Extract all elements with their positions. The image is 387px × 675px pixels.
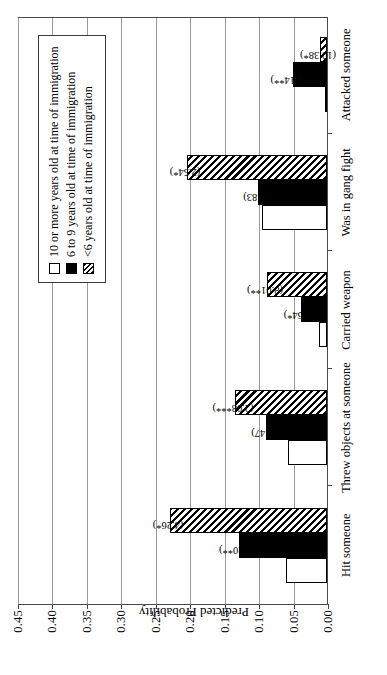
bar: (8.01**) — [267, 273, 327, 298]
bar: (0.83) — [258, 180, 327, 205]
y-tick-label: 0.00 — [321, 610, 336, 633]
gridline — [121, 18, 122, 604]
y-tick-mark — [190, 604, 191, 609]
bar-annotation: (3.64*) — [284, 310, 315, 321]
bar-annotation: (0.83) — [243, 192, 268, 203]
bar-annotation: (10.38*) — [300, 50, 336, 61]
bar-chart-figure: Predicted Probability 0.000.050.100.150.… — [0, 0, 387, 675]
bar-annotation: (2.08***) — [213, 403, 254, 414]
bar-annotation: (4.26*) — [153, 520, 184, 531]
x-tick-mark — [327, 368, 332, 369]
bar: (2.54*) — [187, 155, 327, 180]
bar — [262, 205, 327, 230]
gridline — [18, 18, 19, 604]
y-tick-mark — [225, 604, 226, 609]
legend-swatch-white — [49, 263, 60, 274]
bar — [286, 558, 327, 583]
y-tick-mark — [328, 604, 329, 609]
legend-swatch-black — [66, 263, 77, 274]
bar — [319, 323, 327, 348]
y-tick-mark — [294, 604, 295, 609]
category-label: Was in gang fight — [339, 148, 354, 236]
category-label: Carried weapon — [339, 270, 354, 349]
bar-annotation: (2.20**) — [219, 545, 255, 556]
bar: (1.47) — [266, 415, 327, 440]
bar: (95.14**) — [293, 62, 327, 87]
x-tick-mark — [327, 485, 332, 486]
legend-entry: 6 to 9 years old at time of immigration — [63, 46, 80, 274]
y-tick-label: 0.40 — [45, 610, 60, 633]
bar: (3.64*) — [301, 298, 327, 323]
chart-legend: 10 or more years old at time of immigrat… — [38, 35, 106, 283]
category-label: Attacked someone — [339, 28, 354, 121]
y-tick-label: 0.15 — [217, 610, 232, 633]
y-tick-mark — [121, 604, 122, 609]
y-tick-mark — [259, 604, 260, 609]
bar: (2.08***) — [235, 390, 327, 415]
bar-annotation: (8.01**) — [247, 285, 283, 296]
y-tick-label: 0.05 — [286, 610, 301, 633]
legend-swatch-hatch — [83, 263, 94, 274]
bar: (2.20**) — [239, 533, 327, 558]
rotated-figure-stage: Predicted Probability 0.000.050.100.150.… — [0, 0, 387, 675]
y-tick-mark — [87, 604, 88, 609]
y-tick-label: 0.25 — [148, 610, 163, 633]
x-tick-mark — [327, 250, 332, 251]
bar — [325, 87, 327, 112]
bar-annotation: (95.14**) — [270, 75, 311, 86]
gridline — [156, 18, 157, 604]
bar-annotation: (2.54*) — [170, 167, 201, 178]
y-tick-label: 0.20 — [183, 610, 198, 633]
legend-label: 10 or more years old at time of immigrat… — [47, 46, 62, 257]
bar: (10.38*) — [320, 37, 327, 62]
y-tick-label: 0.10 — [252, 610, 267, 633]
y-tick-label: 0.45 — [11, 610, 26, 633]
legend-label: 6 to 9 years old at time of immigration — [64, 72, 79, 257]
category-label: Hit someone — [339, 513, 354, 577]
bar-annotation: (1.47) — [252, 428, 277, 439]
y-tick-mark — [18, 604, 19, 609]
category-label: Threw objects at someone — [339, 362, 354, 493]
x-tick-mark — [327, 133, 332, 134]
y-tick-label: 0.35 — [79, 610, 94, 633]
legend-label: <6 years old at time of immigration — [81, 86, 96, 257]
legend-entry: <6 years old at time of immigration — [80, 46, 97, 274]
bar: (4.26*) — [170, 508, 327, 533]
legend-entry: 10 or more years old at time of immigrat… — [46, 46, 63, 274]
y-tick-label: 0.30 — [114, 610, 129, 633]
bar — [288, 440, 327, 465]
y-tick-mark — [156, 604, 157, 609]
y-tick-mark — [52, 604, 53, 609]
